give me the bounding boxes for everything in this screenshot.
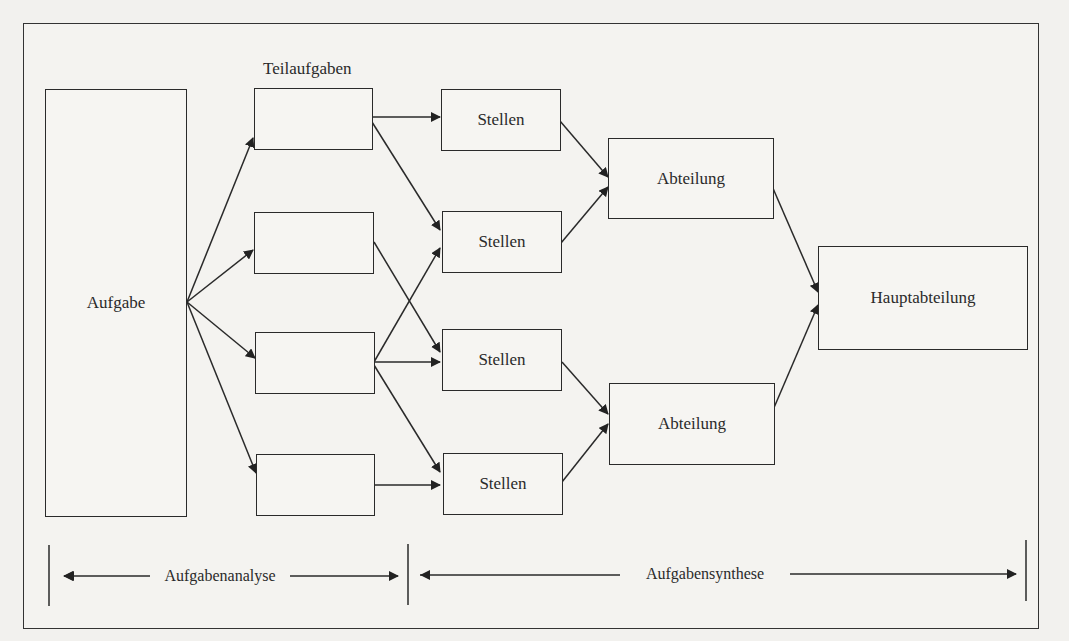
task-label: Aufgabe [87,293,146,313]
position-label: Stellen [478,232,525,252]
position-box-4: Stellen [443,453,563,515]
position-label: Stellen [478,350,525,370]
subtask-box-4 [256,454,375,516]
department-box-2: Abteilung [609,383,775,465]
position-box-1: Stellen [441,89,561,151]
main-department-box: Hauptabteilung [818,246,1028,350]
subtask-box-1 [254,88,373,150]
position-box-2: Stellen [442,211,562,273]
subtask-box-3 [255,332,375,394]
department-label: Abteilung [657,169,725,189]
phase-analysis-label: Aufgabenanalyse [160,567,279,585]
position-box-3: Stellen [442,329,562,391]
position-label: Stellen [477,110,524,130]
task-box: Aufgabe [45,89,187,517]
department-label: Abteilung [658,414,726,434]
subtask-box-2 [254,212,374,274]
department-box-1: Abteilung [608,138,774,219]
phase-synthesis-label: Aufgabensynthese [642,565,768,583]
subtasks-heading: Teilaufgaben [263,59,352,79]
main-department-label: Hauptabteilung [871,288,976,308]
position-label: Stellen [479,474,526,494]
